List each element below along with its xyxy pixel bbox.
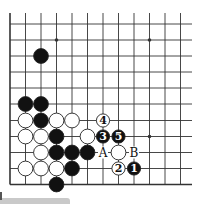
move-3-black-stone: 3 [96, 130, 109, 144]
black-stone [49, 145, 64, 160]
move-1-black-stone: 1 [127, 162, 140, 176]
move-2-white-stone: 2 [112, 162, 125, 176]
white-stone [49, 113, 64, 128]
white-stone [34, 161, 49, 176]
page-footer-bar [0, 198, 70, 204]
star-point [148, 38, 152, 42]
black-stone [34, 113, 49, 128]
star-point [148, 135, 152, 139]
star-point [55, 38, 59, 42]
white-stone [80, 129, 95, 144]
point-label-b: B [130, 146, 139, 160]
go-board: 12345 AB [0, 0, 198, 204]
move-number: 2 [115, 162, 123, 175]
black-stone [49, 129, 64, 144]
white-stone [65, 113, 80, 128]
move-5-black-stone: 5 [112, 130, 125, 144]
black-stone [34, 97, 49, 112]
move-4-white-stone: 4 [96, 114, 109, 128]
black-stone [49, 177, 64, 192]
move-number: 4 [99, 114, 107, 127]
white-stone [49, 161, 64, 176]
black-stone [65, 145, 80, 160]
white-stone [18, 113, 33, 128]
white-stone [34, 129, 49, 144]
white-stone [18, 161, 33, 176]
point-label-a: A [98, 146, 108, 160]
black-stone [18, 97, 33, 112]
white-stone [111, 145, 126, 160]
black-stone [65, 161, 80, 176]
move-number: 3 [99, 130, 107, 143]
move-number: 5 [115, 130, 123, 143]
black-stone [34, 49, 49, 64]
white-stone [34, 145, 49, 160]
white-stone [18, 129, 33, 144]
black-stone [80, 145, 95, 160]
edge-mark [0, 192, 2, 200]
move-number: 1 [130, 162, 138, 175]
